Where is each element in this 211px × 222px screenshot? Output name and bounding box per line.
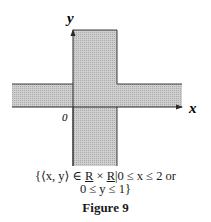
real-numbers-symbol: R — [107, 169, 115, 183]
region-diagram: y x 0 — [0, 0, 211, 168]
vertical-band — [73, 30, 117, 166]
origin-label: 0 — [62, 111, 68, 123]
set-condition: |0 ≤ x ≤ 2 or — [115, 169, 176, 183]
y-axis-label: y — [65, 10, 74, 26]
x-axis-label: x — [188, 100, 197, 116]
shaded-region — [12, 30, 182, 166]
figure-label: Figure 9 — [0, 201, 211, 214]
set-notation-line-2: 0 ≤ y ≤ 1} — [0, 183, 211, 196]
set-prefix: {⟨x, y⟩ ∈ — [35, 169, 85, 183]
cartesian-product-symbol: × — [93, 169, 106, 183]
